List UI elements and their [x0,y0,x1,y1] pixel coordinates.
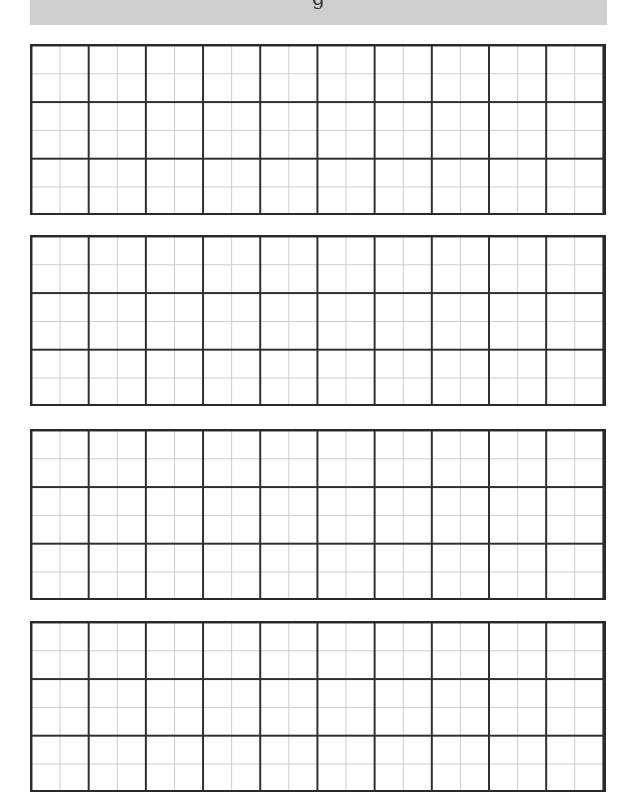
grid-block-4 [30,621,606,792]
grid-block-3 [30,429,606,600]
grid-block-2 [30,235,606,406]
page-title: g [30,0,607,10]
header-band: g [30,0,607,25]
grid-block-1 [30,44,606,215]
